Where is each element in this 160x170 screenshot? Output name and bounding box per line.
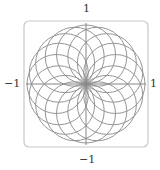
x-tick-min: −1 <box>4 78 20 89</box>
chart-canvas <box>0 0 160 170</box>
y-tick-max: 1 <box>83 3 90 14</box>
y-tick-min: −1 <box>79 154 95 165</box>
rose-curve <box>27 25 145 143</box>
polar-rose-chart: 1 −1 −1 1 <box>0 0 160 170</box>
x-tick-max: 1 <box>150 78 157 89</box>
